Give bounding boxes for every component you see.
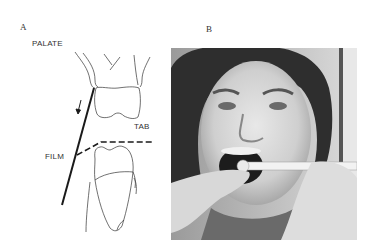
panel-b-label: B — [206, 24, 212, 34]
photo-illustration — [171, 48, 357, 240]
patient-photo — [171, 48, 357, 240]
